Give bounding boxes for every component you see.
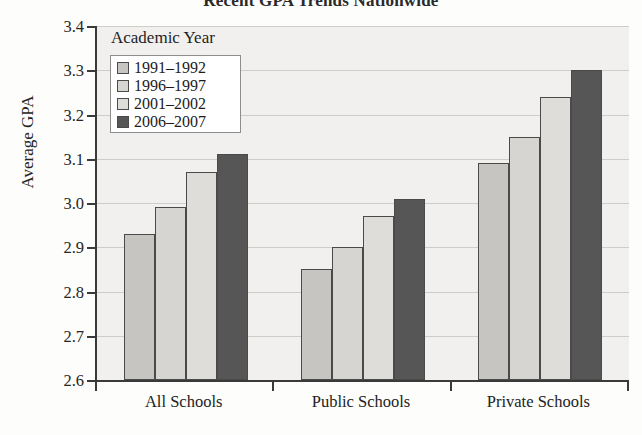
legend-swatch-icon [117, 116, 129, 128]
gridline [97, 26, 629, 27]
legend-item-label: 1996–1997 [134, 78, 206, 94]
y-tick-label: 2.9 [40, 238, 84, 258]
y-tick-label: 2.6 [40, 371, 84, 391]
legend-item-label: 2001–2002 [134, 96, 206, 112]
y-tick-mark [87, 292, 96, 294]
bar [478, 163, 509, 380]
y-tick-label: 3.1 [40, 150, 84, 170]
y-tick-mark [87, 115, 96, 117]
x-tick-label: Public Schools [266, 392, 456, 412]
y-tick-label: 3.4 [40, 17, 84, 37]
legend-item: 2001–2002 [117, 95, 240, 113]
x-tick-label: Private Schools [443, 392, 633, 412]
bar [571, 70, 602, 380]
y-tick-label: 3.0 [40, 194, 84, 214]
bar [363, 216, 394, 380]
legend-swatch-icon [117, 98, 129, 110]
chart-legend: 1991–19921996–19972001–20022006–2007 [110, 55, 241, 133]
gpa-trends-bar-chart: Recent GPA Trends Nationwide Average GPA… [0, 0, 642, 435]
legend-swatch-icon [117, 62, 129, 74]
legend-item: 1996–1997 [117, 77, 240, 95]
x-tick-label: All Schools [89, 392, 279, 412]
footer-smudge [0, 428, 642, 435]
y-tick-label: 2.7 [40, 327, 84, 347]
bar [301, 269, 332, 380]
x-axis-line [93, 380, 629, 382]
y-axis-title: Average GPA [18, 62, 38, 222]
legend-item: 1991–1992 [117, 59, 240, 77]
y-tick-label: 3.2 [40, 106, 84, 126]
y-tick-label: 3.3 [40, 61, 84, 81]
y-tick-label: 2.8 [40, 283, 84, 303]
y-tick-mark [87, 70, 96, 72]
legend-item: 2006–2007 [117, 113, 240, 131]
chart-title: Recent GPA Trends Nationwide [0, 0, 642, 11]
legend-swatch-icon [117, 80, 129, 92]
bar [155, 207, 186, 380]
x-tick-mark [95, 380, 97, 391]
bar [540, 97, 571, 380]
bar [217, 154, 248, 380]
bar [394, 199, 425, 380]
bar [332, 247, 363, 380]
y-tick-mark [87, 247, 96, 249]
x-tick-mark [272, 380, 274, 391]
legend-title: Academic Year [111, 28, 215, 48]
y-tick-mark [87, 159, 96, 161]
legend-item-label: 2006–2007 [134, 114, 206, 130]
y-tick-mark [87, 26, 96, 28]
x-tick-mark [627, 380, 629, 391]
legend-item-label: 1991–1992 [134, 60, 206, 76]
bar [124, 234, 155, 380]
y-tick-mark [87, 336, 96, 338]
y-tick-mark [87, 203, 96, 205]
bar [509, 137, 540, 380]
bar [186, 172, 217, 380]
x-tick-mark [450, 380, 452, 391]
